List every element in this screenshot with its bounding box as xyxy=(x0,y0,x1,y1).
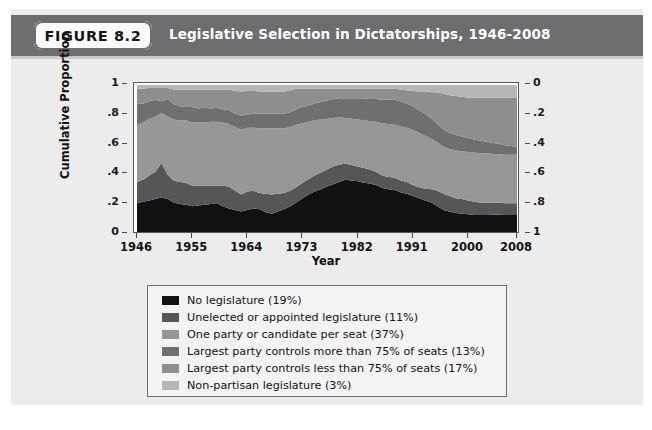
legend-item: One party or candidate per seat (37%) xyxy=(162,326,506,343)
axis-tick-label: .6 xyxy=(107,136,119,149)
legend-swatch xyxy=(162,381,179,390)
legend-item: Largest party controls less than 75% of … xyxy=(162,360,506,377)
axis-tick xyxy=(301,233,302,238)
axis-tick-label: .2 xyxy=(107,195,119,208)
axis-tick-label: 1955 xyxy=(175,240,207,254)
axis-tick-label: 1 xyxy=(533,225,541,238)
axis-tick xyxy=(191,233,192,238)
axis-tick xyxy=(525,143,530,144)
legend-label: One party or candidate per seat (37%) xyxy=(187,328,404,341)
legend-item: No legislature (19%) xyxy=(162,292,506,309)
plot-inner xyxy=(137,85,517,232)
legend-item: Largest party controls more than 75% of … xyxy=(162,343,506,360)
axis-tick-label: .2 xyxy=(533,106,545,119)
axis-tick xyxy=(357,233,358,238)
axis-tick-label: 2008 xyxy=(500,240,532,254)
figure-header-bar: FIGURE 8.2 Legislative Selection in Dict… xyxy=(11,15,643,56)
axis-tick xyxy=(525,172,530,173)
axis-tick-label: 1964 xyxy=(230,240,262,254)
axis-tick xyxy=(467,233,468,238)
axis-tick xyxy=(525,232,530,233)
axis-tick xyxy=(122,232,127,233)
axis-tick xyxy=(246,233,247,238)
legend-swatch xyxy=(162,296,179,305)
figure-title: Legislative Selection in Dictatorships, … xyxy=(169,26,551,42)
y-axis-left: 1.8.6.4.20 xyxy=(99,82,127,233)
legend-item: Unelected or appointed legislature (11%) xyxy=(162,309,506,326)
figure-number-badge: FIGURE 8.2 xyxy=(34,21,152,50)
figure-page: FIGURE 8.2 Legislative Selection in Dict… xyxy=(0,0,652,430)
stacked-area-chart xyxy=(137,85,517,232)
legend-item: Non-partisan legislature (3%) xyxy=(162,377,506,394)
axis-tick-label: 1946 xyxy=(120,240,152,254)
axis-tick xyxy=(122,143,127,144)
x-axis-title: Year xyxy=(133,254,519,268)
y-axis-right: 0.2.4.6.81 xyxy=(525,82,553,233)
legend-label: Non-partisan legislature (3%) xyxy=(187,379,351,392)
axis-tick xyxy=(412,233,413,238)
axis-tick xyxy=(525,113,530,114)
axis-tick xyxy=(122,202,127,203)
axis-tick-label: .4 xyxy=(533,136,545,149)
axis-tick-label: .6 xyxy=(533,165,545,178)
chart-region: Cumulative Proportion 1.8.6.4.20 0.2.4.6… xyxy=(11,60,643,275)
axis-tick-label: 0 xyxy=(533,76,541,89)
axis-tick xyxy=(136,233,137,238)
axis-tick-label: 1982 xyxy=(341,240,373,254)
axis-tick xyxy=(122,172,127,173)
legend-label: Largest party controls less than 75% of … xyxy=(187,362,477,375)
axis-tick-label: .4 xyxy=(107,165,119,178)
legend-swatch xyxy=(162,347,179,356)
axis-tick-label: 1 xyxy=(111,76,119,89)
axis-tick-label: .8 xyxy=(107,106,119,119)
axis-tick-label: 1973 xyxy=(285,240,317,254)
axis-tick-label: 1991 xyxy=(396,240,428,254)
legend-label: Unelected or appointed legislature (11%) xyxy=(187,311,418,324)
axis-tick xyxy=(122,113,127,114)
plot-area xyxy=(133,82,519,233)
axis-tick xyxy=(525,83,530,84)
legend-swatch xyxy=(162,313,179,322)
legend-label: Largest party controls more than 75% of … xyxy=(187,345,485,358)
legend-swatch xyxy=(162,364,179,373)
chart-legend: No legislature (19%)Unelected or appoint… xyxy=(147,285,507,397)
y-axis-title: Cumulative Proportion xyxy=(58,59,72,179)
axis-tick xyxy=(525,202,530,203)
axis-tick-label: 2000 xyxy=(451,240,483,254)
legend-swatch xyxy=(162,330,179,339)
legend-label: No legislature (19%) xyxy=(187,294,302,307)
axis-tick-label: .8 xyxy=(533,195,545,208)
axis-tick xyxy=(122,83,127,84)
axis-tick-label: 0 xyxy=(111,225,119,238)
axis-tick xyxy=(516,233,517,238)
